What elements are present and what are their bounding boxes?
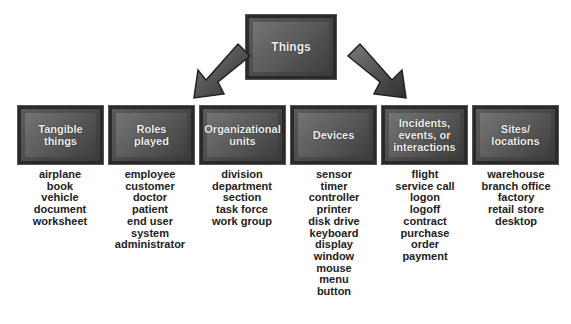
example-item: employee xyxy=(100,169,200,181)
example-item: button xyxy=(284,286,384,298)
category-organizational-units: Organizational units xyxy=(199,105,286,165)
example-item: division xyxy=(192,169,292,181)
category-roles-played: Roles played xyxy=(108,105,195,165)
arrow-down-right-icon xyxy=(334,42,412,104)
example-item: airplane xyxy=(10,169,110,181)
example-item: disk drive xyxy=(284,216,384,228)
category-incidents-events-interactions: Incidents, events, or interactions xyxy=(381,105,468,165)
category-label: Organizational units xyxy=(204,123,280,147)
examples-tangible-things: airplane book vehicle document worksheet xyxy=(10,169,110,228)
category-label: Sites/ locations xyxy=(491,123,539,147)
example-item: warehouse xyxy=(466,169,566,181)
category-devices: Devices xyxy=(290,105,377,165)
example-item: payment xyxy=(375,251,475,263)
examples-incidents-events-interactions: flight service call logon logoff contrac… xyxy=(375,169,475,263)
root-node-label: Things xyxy=(271,41,310,53)
example-item: administrator xyxy=(100,239,200,251)
category-tangible-things: Tangible things xyxy=(17,105,104,165)
examples-devices: sensor timer controller printer disk dri… xyxy=(284,169,384,298)
examples-roles-played: employee customer doctor patient end use… xyxy=(100,169,200,251)
examples-organizational-units: division department section task force w… xyxy=(192,169,292,228)
example-item: end user xyxy=(100,216,200,228)
category-label: Tangible things xyxy=(38,123,82,147)
example-item: work group xyxy=(192,216,292,228)
example-item: contract xyxy=(375,216,475,228)
examples-sites-locations: warehouse branch office factory retail s… xyxy=(466,169,566,228)
category-label: Roles played xyxy=(134,123,169,147)
example-item: worksheet xyxy=(10,216,110,228)
category-sites-locations: Sites/ locations xyxy=(472,105,559,165)
example-item: window xyxy=(284,251,384,263)
example-item: sensor xyxy=(284,169,384,181)
category-label: Devices xyxy=(313,129,355,141)
arrow-down-left-icon xyxy=(188,42,266,104)
example-item: desktop xyxy=(466,216,566,228)
example-item: flight xyxy=(375,169,475,181)
category-label: Incidents, events, or interactions xyxy=(393,117,455,153)
